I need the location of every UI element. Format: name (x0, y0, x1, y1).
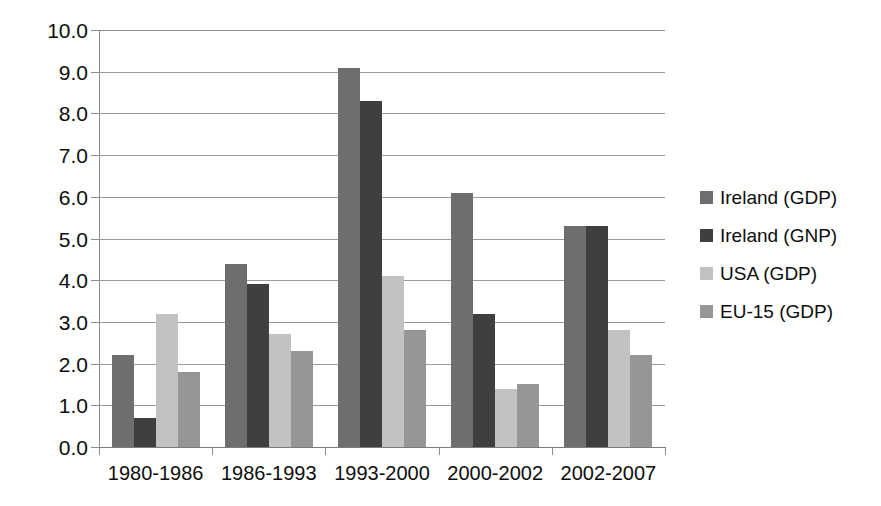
bar-group (338, 30, 426, 447)
legend-item: EU-15 (GDP) (700, 292, 875, 330)
chart-legend: Ireland (GDP)Ireland (GNP)USA (GDP)EU-15… (700, 178, 875, 330)
bar (360, 101, 382, 447)
bar (134, 418, 156, 447)
bar (495, 389, 517, 447)
x-axis-tick-mark (552, 447, 553, 455)
legend-label: Ireland (GDP) (720, 188, 837, 207)
bar-group (451, 30, 539, 447)
legend-item: USA (GDP) (700, 254, 875, 292)
x-axis-tick-label: 2002-2007 (552, 461, 665, 485)
x-axis-tick-mark (212, 447, 213, 455)
bar (451, 193, 473, 447)
bar-group (225, 30, 313, 447)
y-axis-tick-label: 8.0 (4, 103, 88, 124)
bar (225, 264, 247, 447)
y-axis-tick-label: 6.0 (4, 187, 88, 208)
y-axis-tick-label: 3.0 (4, 312, 88, 333)
y-axis-tick-label: 5.0 (4, 229, 88, 250)
x-axis-tick-mark (439, 447, 440, 455)
legend-swatch-icon (700, 229, 713, 242)
bar (517, 384, 539, 447)
legend-item: Ireland (GNP) (700, 216, 875, 254)
bar (247, 284, 269, 447)
y-axis-tick-label: 4.0 (4, 270, 88, 291)
bar (608, 330, 630, 447)
plot-area (99, 30, 665, 447)
x-axis-tick-mark (665, 447, 666, 455)
x-axis-tick-label: 1980-1986 (99, 461, 212, 485)
y-axis-tick-label: 7.0 (4, 145, 88, 166)
y-axis-tick-label: 9.0 (4, 62, 88, 83)
bar (473, 314, 495, 447)
legend-swatch-icon (700, 191, 713, 204)
y-axis-tick-mark (91, 280, 99, 281)
bar (291, 351, 313, 447)
y-axis-tick-label: 0.0 (4, 437, 88, 458)
x-axis-tick-mark (99, 447, 100, 455)
bar-group (112, 30, 200, 447)
y-axis-tick-mark (91, 322, 99, 323)
legend-swatch-icon (700, 305, 713, 318)
bar (630, 355, 652, 447)
bar (178, 372, 200, 447)
bar (564, 226, 586, 447)
legend-swatch-icon (700, 267, 713, 280)
bar (156, 314, 178, 447)
y-axis-tick-label: 2.0 (4, 354, 88, 375)
y-axis-tick-label: 1.0 (4, 395, 88, 416)
x-axis-tick-label: 1993-2000 (325, 461, 438, 485)
legend-label: Ireland (GNP) (720, 226, 837, 245)
x-axis-tick-label: 1986-1993 (212, 461, 325, 485)
bar-chart: 0.01.02.03.04.05.06.07.08.09.010.0 1980-… (0, 0, 881, 506)
y-axis-labels: 0.01.02.03.04.05.06.07.08.09.010.0 (0, 0, 88, 506)
legend-item: Ireland (GDP) (700, 178, 875, 216)
y-axis-tick-mark (91, 30, 99, 31)
bar (338, 68, 360, 447)
y-axis-tick-mark (91, 405, 99, 406)
legend-label: EU-15 (GDP) (720, 302, 833, 321)
gridline (99, 447, 665, 448)
bar (112, 355, 134, 447)
x-axis-tick-label: 2000-2002 (439, 461, 552, 485)
y-axis-tick-mark (91, 239, 99, 240)
bar (269, 334, 291, 447)
y-axis-tick-mark (91, 72, 99, 73)
y-axis-tick-mark (91, 364, 99, 365)
bar (586, 226, 608, 447)
x-axis-tick-mark (325, 447, 326, 455)
y-axis-tick-label: 10.0 (4, 20, 88, 41)
y-axis-tick-mark (91, 197, 99, 198)
bar (382, 276, 404, 447)
y-axis-tick-mark (91, 155, 99, 156)
y-axis-tick-mark (91, 447, 99, 448)
bar-group (564, 30, 652, 447)
legend-label: USA (GDP) (720, 264, 817, 283)
y-axis-tick-mark (91, 113, 99, 114)
bar (404, 330, 426, 447)
